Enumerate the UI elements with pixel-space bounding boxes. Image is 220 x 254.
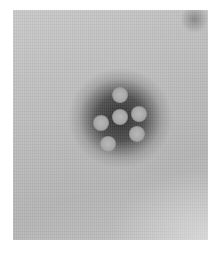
micrograph-image (13, 10, 208, 240)
particle-right (131, 106, 147, 122)
particle-center (112, 109, 128, 125)
particle-top (112, 87, 128, 103)
particle-lower-right (129, 126, 145, 142)
light-region (108, 170, 208, 240)
particle-left (93, 115, 109, 131)
particle-lower-left (100, 136, 116, 152)
